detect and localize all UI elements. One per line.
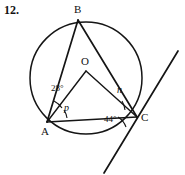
angle-label-n: n: [117, 85, 122, 95]
geometry-figure: 12. B A C O 28° p n 44°: [0, 0, 185, 175]
angle-label-44-degrees: 44°: [104, 115, 117, 124]
angle-label-28-degrees: 28°: [51, 84, 64, 93]
chord-bc-line: [78, 20, 137, 117]
problem-number: 12.: [4, 4, 19, 16]
geometry-canvas: [0, 0, 185, 175]
vertex-label-a: A: [41, 126, 49, 137]
center-label-o: O: [81, 56, 89, 67]
angle-label-p: p: [64, 103, 69, 113]
chord-ab-line: [47, 20, 78, 122]
vertex-label-b: B: [74, 4, 81, 15]
radius-oc-line: [86, 71, 137, 117]
vertex-label-c: C: [141, 112, 148, 123]
